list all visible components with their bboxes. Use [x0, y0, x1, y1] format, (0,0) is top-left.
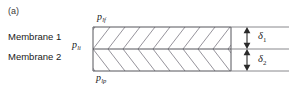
- pressure-permeate-subscript: lp: [101, 77, 106, 84]
- membrane-2-label: Membrane 2: [8, 52, 61, 62]
- pressure-interface-subscript: li: [77, 44, 81, 51]
- delta-2-subscript: 2: [263, 59, 266, 66]
- pressure-feed-subscript: lf: [102, 16, 106, 23]
- membrane-2-hatch: [78, 49, 245, 71]
- pressure-permeate-label: plp: [96, 73, 106, 83]
- panel-label: (a): [8, 7, 19, 16]
- membrane-1-label: Membrane 1: [8, 32, 61, 42]
- pressure-interface-label: pli: [72, 40, 81, 50]
- delta-2-arrow: [244, 49, 251, 71]
- delta-2-label: δ2: [258, 54, 266, 65]
- membrane-diagram-svg: [0, 0, 302, 92]
- pressure-feed-label: plf: [97, 12, 106, 22]
- delta-1-subscript: 1: [263, 36, 266, 43]
- membrane-cross-section-figure: (a) Membrane 1 Membrane 2 plf pli plp δ1…: [0, 0, 302, 92]
- delta-1-arrow: [244, 27, 251, 49]
- delta-1-label: δ1: [258, 31, 266, 42]
- membrane-1-hatch: [78, 27, 245, 49]
